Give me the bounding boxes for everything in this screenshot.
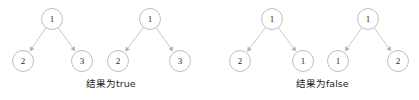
tree-group-group-false: 121112: [230, 9, 409, 72]
edge-arrowhead-left: [125, 47, 130, 52]
edge-line-left: [247, 27, 265, 51]
tree-edge-right: [58, 28, 75, 52]
tree-edge-right: [374, 28, 391, 52]
edge-arrowhead-left: [30, 46, 35, 51]
tree-edge-left: [30, 28, 46, 51]
node-label-right-child: 1: [301, 56, 306, 66]
edge-arrowhead-right: [168, 46, 173, 51]
tree-node-right-child: 3: [170, 51, 191, 72]
caption-result-false: 结果为false: [296, 76, 349, 90]
binary-tree-tree-2: 123: [108, 9, 191, 72]
tree-node-right-child: 2: [388, 51, 409, 72]
tree-edge-left: [247, 27, 265, 51]
tree-edge-right: [278, 27, 296, 51]
binary-tree-comparison-figure: 123123121112 结果为true 结果为false: [0, 0, 419, 100]
node-label-left-child: 2: [21, 56, 26, 66]
node-label-right-child: 3: [178, 56, 183, 66]
node-label-root: 1: [50, 14, 55, 24]
node-label-left-child: 1: [336, 56, 341, 66]
edge-line-left: [30, 28, 46, 51]
binary-tree-tree-4: 112: [328, 9, 409, 72]
edge-line-right: [58, 28, 75, 52]
edge-line-left: [345, 28, 362, 52]
edge-line-right: [156, 28, 173, 52]
node-label-right-child: 3: [80, 56, 85, 66]
binary-tree-tree-3: 121: [230, 9, 314, 72]
tree-node-right-child: 3: [72, 51, 93, 72]
tree-node-left-child: 2: [230, 51, 251, 72]
edge-line-right: [374, 28, 391, 52]
tree-diagram-canvas: 123123121112: [0, 0, 419, 100]
node-label-left-child: 2: [238, 56, 243, 66]
binary-tree-tree-1: 123: [13, 9, 93, 72]
tree-node-root: 1: [140, 9, 161, 30]
tree-node-root: 1: [42, 9, 63, 30]
edge-line-right: [278, 27, 296, 51]
edge-arrowhead-left: [345, 46, 350, 51]
tree-node-right-child: 1: [293, 51, 314, 72]
tree-group-group-true: 123123: [13, 9, 191, 72]
node-label-root: 1: [366, 14, 371, 24]
edge-line-left: [125, 27, 143, 51]
edge-arrowhead-left: [247, 47, 252, 52]
edge-arrowhead-right: [70, 46, 75, 51]
node-label-root: 1: [148, 14, 153, 24]
caption-result-true: 结果为true: [86, 76, 136, 90]
tree-edge-left: [125, 27, 143, 51]
tree-node-root: 1: [262, 9, 283, 30]
tree-edge-right: [156, 28, 173, 52]
tree-node-left-child: 2: [13, 51, 34, 72]
tree-node-left-child: 1: [328, 51, 349, 72]
tree-edge-left: [345, 28, 362, 52]
node-label-root: 1: [270, 14, 275, 24]
edge-arrowhead-right: [386, 46, 391, 51]
tree-node-root: 1: [358, 9, 379, 30]
edge-arrowhead-right: [291, 46, 296, 51]
tree-node-left-child: 2: [108, 51, 129, 72]
node-label-left-child: 2: [116, 56, 121, 66]
node-label-right-child: 2: [396, 56, 401, 66]
